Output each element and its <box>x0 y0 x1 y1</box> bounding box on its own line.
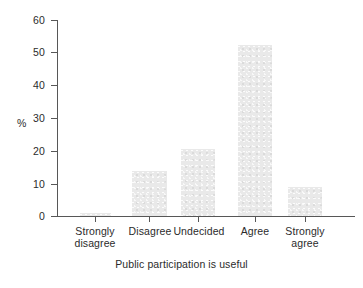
bar-chart-figure: 60 50 40 30 20 10 0 % Strongly disagree … <box>0 0 363 288</box>
x-axis-label-line-1: Strongly <box>273 226 337 238</box>
y-axis-title: % <box>17 118 26 129</box>
x-axis-line <box>57 216 355 217</box>
y-axis-tick-label-50: 50 <box>5 47 45 58</box>
x-axis-tick-disagree <box>149 216 150 222</box>
bar-strongly-agree[interactable] <box>288 187 322 216</box>
bar-agree[interactable] <box>238 45 272 217</box>
x-axis-label-line-1: Strongly <box>63 226 127 238</box>
y-axis-tick-label-10: 10 <box>5 179 45 190</box>
y-axis-line <box>57 20 58 217</box>
x-axis-label-strongly-disagree: Strongly disagree <box>63 226 127 249</box>
y-axis-tick-20 <box>51 151 57 152</box>
y-axis-tick-50 <box>51 52 57 53</box>
y-axis-tick-label-20: 20 <box>5 146 45 157</box>
y-axis-tick-label-60: 60 <box>5 15 45 26</box>
x-axis-label-strongly-agree: Strongly agree <box>273 226 337 249</box>
y-axis-tick-0 <box>51 216 57 217</box>
y-axis-tick-10 <box>51 184 57 185</box>
x-axis-tick-agree <box>255 216 256 222</box>
bar-disagree[interactable] <box>132 171 167 216</box>
x-axis-label-line-2: disagree <box>63 238 127 250</box>
y-axis-tick-60 <box>51 20 57 21</box>
x-axis-label-line-1: Undecided <box>168 226 230 238</box>
x-axis-title: Public participation is useful <box>0 258 363 270</box>
x-axis-tick-undecided <box>198 216 199 222</box>
x-axis-label-line-2: agree <box>273 238 337 250</box>
x-axis-label-undecided: Undecided <box>168 226 230 238</box>
y-axis-tick-label-0: 0 <box>5 211 45 222</box>
x-axis-tick-strongly-disagree <box>95 216 96 222</box>
y-axis-tick-label-40: 40 <box>5 80 45 91</box>
plot-area: 60 50 40 30 20 10 0 % Strongly disagree … <box>0 0 363 288</box>
y-axis-tick-30 <box>51 118 57 119</box>
bar-undecided[interactable] <box>181 149 215 216</box>
x-axis-tick-strongly-agree <box>305 216 306 222</box>
y-axis-tick-40 <box>51 85 57 86</box>
